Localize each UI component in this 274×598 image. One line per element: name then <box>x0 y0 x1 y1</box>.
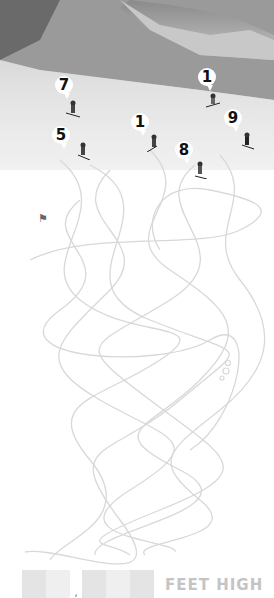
answer-box-1[interactable] <box>22 570 46 598</box>
answer-boxes: , <box>22 570 154 598</box>
skier-badge-1b: 1 <box>131 113 149 131</box>
skier-badge-7: 7 <box>55 76 73 94</box>
skier-icon <box>66 100 80 118</box>
skier-badge-9: 9 <box>224 109 242 127</box>
maze-paths <box>0 140 274 570</box>
answer-box-5[interactable] <box>130 570 154 598</box>
skier-badge-5: 5 <box>52 126 70 144</box>
answer-box-2[interactable] <box>46 570 70 598</box>
skier-icon <box>193 161 207 179</box>
skier-icon <box>76 142 90 160</box>
answer-box-3[interactable] <box>82 570 106 598</box>
answer-box-4[interactable] <box>106 570 130 598</box>
thousands-separator: , <box>70 587 82 598</box>
skier-badge-1a: 1 <box>198 68 216 86</box>
finish-flag-icon: ⚑ <box>38 212 48 225</box>
unit-label: FEET HIGH <box>165 576 263 594</box>
skier-icon <box>147 134 161 152</box>
skier-badge-8: 8 <box>175 141 193 159</box>
skier-icon <box>240 132 254 150</box>
skier-icon <box>206 93 220 111</box>
